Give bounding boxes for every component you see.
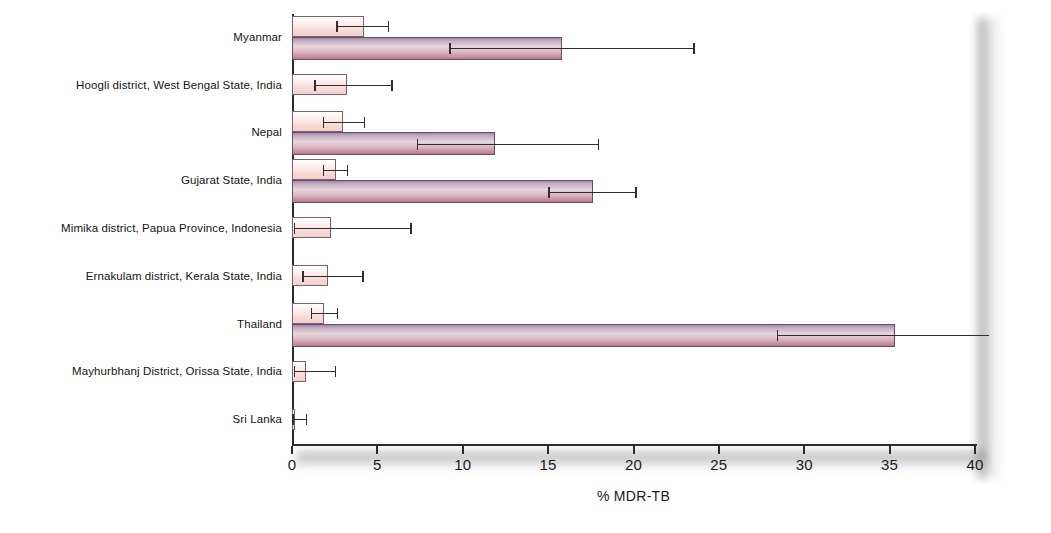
x-tick	[291, 446, 293, 454]
error-bar	[323, 170, 349, 171]
category-label: Hoogli district, West Bengal State, Indi…	[76, 79, 282, 91]
x-tick-label: 40	[966, 456, 983, 473]
error-cap-high	[598, 139, 600, 150]
category-label: Gujarat State, India	[181, 174, 282, 186]
error-bar	[417, 144, 600, 145]
error-bar	[294, 371, 337, 372]
category-label: Myanmar	[233, 31, 282, 43]
x-tick-label: 0	[288, 456, 297, 473]
x-tick	[803, 446, 805, 454]
error-cap-high	[362, 271, 364, 282]
error-cap-low	[311, 308, 313, 319]
x-tick-label: 25	[710, 456, 727, 473]
category-row: Gujarat State, India	[292, 157, 975, 205]
plot-area: 0510152025303540 MyanmarHoogli district,…	[292, 14, 975, 446]
x-tick-label: 35	[881, 456, 898, 473]
page-edge-shadow	[978, 18, 1004, 478]
category-row: Thailand	[292, 301, 975, 349]
x-tick-label: 5	[373, 456, 382, 473]
error-cap-low	[777, 330, 779, 341]
error-cap-low	[323, 165, 325, 176]
error-cap-high	[337, 308, 339, 319]
error-cap-high	[388, 21, 390, 32]
error-bar	[294, 228, 412, 229]
category-label: Sri Lanka	[233, 413, 282, 425]
error-bar	[336, 26, 389, 27]
error-cap-high	[347, 165, 349, 176]
error-cap-low	[548, 187, 550, 198]
category-row: Sri Lanka	[292, 396, 975, 444]
error-cap-low	[294, 223, 296, 234]
error-cap-high	[335, 366, 337, 377]
category-row: Hoogli district, West Bengal State, Indi…	[292, 62, 975, 110]
category-label: Mimika district, Papua Province, Indones…	[61, 222, 282, 234]
category-row: Nepal	[292, 110, 975, 158]
x-tick-label: 20	[625, 456, 642, 473]
error-cap-low	[336, 21, 338, 32]
x-tick	[462, 446, 464, 454]
error-bar	[311, 313, 338, 314]
x-tick	[974, 446, 976, 454]
category-row: Mayhurbhanj District, Orissa State, Indi…	[292, 348, 975, 396]
error-cap-high	[693, 43, 695, 54]
x-tick-label: 15	[540, 456, 557, 473]
error-bar	[449, 48, 695, 49]
x-axis-title: % MDR-TB	[292, 488, 975, 504]
error-bar	[777, 335, 989, 336]
x-tick	[889, 446, 891, 454]
category-row: Mimika district, Papua Province, Indones…	[292, 205, 975, 253]
x-tick	[718, 446, 720, 454]
category-row: Myanmar	[292, 14, 975, 62]
error-bar	[292, 419, 307, 420]
error-cap-low	[314, 80, 316, 91]
x-tick-label: 10	[454, 456, 471, 473]
error-cap-high	[410, 223, 412, 234]
error-bar	[314, 85, 393, 86]
category-label: Ernakulam district, Kerala State, India	[86, 270, 282, 282]
category-label: Thailand	[237, 318, 282, 330]
x-tick-label: 30	[796, 456, 813, 473]
error-bar	[548, 192, 637, 193]
error-cap-low	[449, 43, 451, 54]
error-cap-low	[302, 271, 304, 282]
error-cap-low	[292, 414, 294, 425]
error-cap-low	[417, 139, 419, 150]
error-cap-high	[364, 117, 366, 128]
chart-page: 0510152025303540 MyanmarHoogli district,…	[0, 0, 1051, 533]
error-cap-high	[306, 414, 308, 425]
category-label: Nepal	[251, 126, 282, 138]
error-cap-high	[635, 187, 637, 198]
x-axis	[292, 444, 977, 446]
error-bar	[302, 276, 363, 277]
x-tick	[633, 446, 635, 454]
category-label: Mayhurbhanj District, Orissa State, Indi…	[72, 365, 282, 377]
error-bar	[323, 122, 366, 123]
error-cap-low	[323, 117, 325, 128]
category-row: Ernakulam district, Kerala State, India	[292, 253, 975, 301]
x-tick	[376, 446, 378, 454]
error-cap-low	[294, 366, 296, 377]
x-tick	[547, 446, 549, 454]
error-cap-high	[391, 80, 393, 91]
